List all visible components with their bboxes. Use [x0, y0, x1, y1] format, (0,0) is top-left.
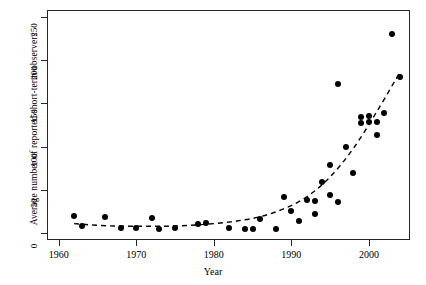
data-point — [102, 214, 108, 220]
data-point — [172, 225, 178, 231]
data-point — [118, 225, 124, 231]
data-point — [203, 220, 209, 226]
data-point — [71, 213, 77, 219]
data-point — [273, 226, 279, 232]
trend-line — [0, 0, 426, 285]
data-point — [374, 119, 380, 125]
data-point — [312, 198, 318, 204]
data-point — [335, 199, 341, 205]
data-point — [312, 211, 318, 217]
data-point — [195, 221, 201, 227]
data-point — [327, 162, 333, 168]
scatter-plot-figure: Average number of reported short-term ob… — [0, 0, 426, 285]
data-point — [343, 144, 349, 150]
data-layer — [0, 0, 426, 285]
data-point — [242, 226, 248, 232]
data-point — [250, 226, 256, 232]
x-axis-title: Year — [0, 266, 426, 277]
data-point — [281, 194, 287, 200]
data-point — [296, 218, 302, 224]
